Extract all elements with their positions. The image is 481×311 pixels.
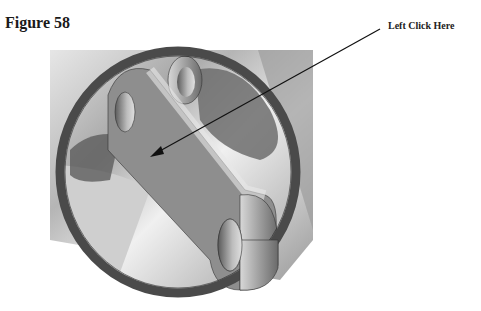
cad-illustration bbox=[0, 0, 481, 311]
left-hole bbox=[115, 92, 135, 132]
